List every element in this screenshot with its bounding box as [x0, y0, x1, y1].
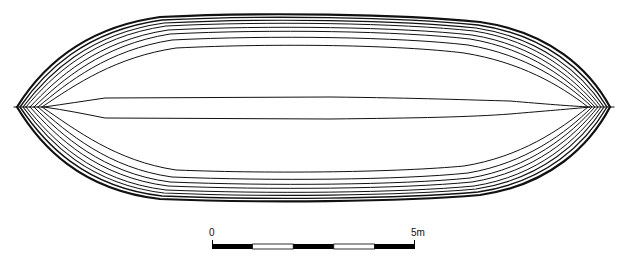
keel-line — [44, 97, 590, 119]
scale-segment-3 — [293, 244, 334, 249]
scale-bar — [212, 240, 415, 249]
hull-line-8 — [42, 45, 588, 172]
scale-segment-1 — [212, 244, 253, 249]
scale-segment-2 — [253, 244, 294, 249]
scale-segment-4 — [334, 244, 375, 249]
scale-label-end: 5m — [411, 228, 425, 238]
scale-segment-5 — [374, 244, 415, 249]
hull-line-5 — [30, 27, 598, 188]
hull-plan-drawing — [0, 0, 627, 261]
hull-line-7 — [38, 37, 592, 179]
hull-line-4 — [26, 23, 601, 192]
scale-label-start: 0 — [209, 228, 215, 238]
hull-line-2 — [20, 17, 607, 198]
hull-outlines — [14, 14, 614, 201]
